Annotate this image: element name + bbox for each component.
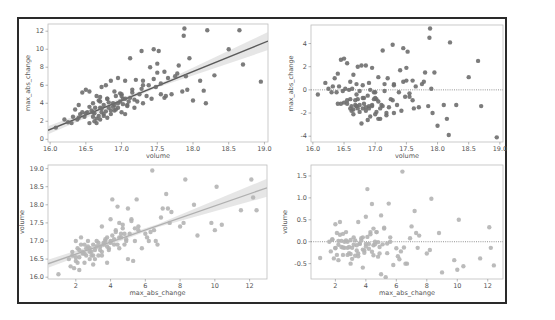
data-point [417, 105, 421, 109]
data-point [82, 261, 86, 265]
data-point [249, 177, 253, 181]
data-point [405, 49, 409, 53]
y-tick-label: 0 [40, 135, 44, 143]
data-point [454, 103, 458, 107]
data-point [329, 90, 333, 94]
data-point [105, 115, 109, 119]
data-point [370, 66, 374, 70]
data-point [336, 102, 340, 106]
data-point [423, 70, 427, 74]
data-point [118, 91, 122, 95]
data-point [414, 84, 418, 88]
subplot-bottom-left: 2468101216.016.517.017.518.018.519.0max_… [18, 165, 267, 297]
data-point [148, 65, 152, 69]
x-tick-label: 12 [245, 282, 253, 290]
data-point [353, 103, 357, 107]
x-tick-label: 18.0 [186, 145, 200, 153]
data-point [209, 221, 213, 225]
data-point [182, 26, 186, 30]
x-tick-label: 2 [333, 282, 337, 290]
data-point [77, 103, 81, 107]
data-point [345, 246, 349, 250]
data-point [404, 78, 408, 82]
data-point [371, 226, 375, 230]
data-point [344, 238, 348, 242]
data-point [382, 82, 386, 86]
data-point [84, 111, 88, 115]
data-point [476, 59, 480, 63]
data-point [341, 253, 345, 257]
data-point [383, 275, 387, 279]
data-point [335, 253, 339, 257]
data-point [241, 62, 245, 66]
x-tick-label: 18.0 [430, 145, 444, 153]
data-point [115, 204, 119, 208]
data-point [408, 236, 412, 240]
data-point [334, 90, 338, 94]
x-tick-label: 19.0 [257, 145, 271, 153]
x-tick-label: 16.5 [79, 145, 93, 153]
data-point [119, 235, 123, 239]
data-point [162, 70, 166, 74]
data-point [93, 106, 97, 110]
data-point [382, 226, 386, 230]
data-point [98, 95, 102, 99]
data-point [373, 96, 377, 100]
data-point [378, 117, 382, 121]
data-point [392, 83, 396, 87]
data-point [178, 224, 182, 228]
data-point [181, 221, 185, 225]
data-point [400, 169, 404, 173]
data-point [357, 89, 361, 93]
data-point [175, 71, 179, 75]
figure-canvas: 16.016.517.017.518.018.519.0024681012vol… [0, 0, 555, 320]
data-point [195, 233, 199, 237]
data-point [169, 92, 173, 96]
data-point [149, 97, 153, 101]
data-point [388, 235, 392, 239]
data-point [67, 257, 71, 261]
data-point [117, 246, 121, 250]
data-point [366, 118, 370, 122]
data-point [148, 230, 152, 234]
data-point [374, 230, 378, 234]
x-tick-label: 4 [109, 282, 113, 290]
y-tick-label: 1.5 [297, 172, 307, 180]
data-point [349, 109, 353, 113]
data-point [343, 87, 347, 91]
data-point [75, 261, 79, 265]
data-point [86, 244, 90, 248]
data-point [487, 225, 491, 229]
data-point [359, 236, 363, 240]
data-point [87, 105, 91, 109]
data-point [455, 268, 459, 272]
data-point [121, 226, 125, 230]
data-point [73, 107, 77, 111]
data-point [336, 239, 340, 243]
data-point [155, 70, 159, 74]
data-point [141, 79, 145, 83]
data-point [99, 106, 103, 110]
data-point [344, 230, 348, 234]
data-point [409, 224, 413, 228]
data-point [103, 237, 107, 241]
data-point [132, 106, 136, 110]
data-point [122, 232, 126, 236]
data-point [402, 245, 406, 249]
data-point [157, 49, 161, 53]
x-tick-label: 4 [364, 282, 368, 290]
data-point [162, 96, 166, 100]
data-point [404, 66, 408, 70]
data-point [159, 81, 163, 85]
axes-box [311, 25, 503, 142]
y-tick-label: -4 [301, 132, 307, 140]
data-point [356, 220, 360, 224]
data-point [74, 239, 78, 243]
data-point [395, 103, 399, 107]
data-point [124, 237, 128, 241]
data-point [429, 197, 433, 201]
x-axis-label: max_abs_change [129, 289, 185, 297]
data-point [69, 121, 73, 125]
data-point [367, 81, 371, 85]
data-point [338, 233, 342, 237]
